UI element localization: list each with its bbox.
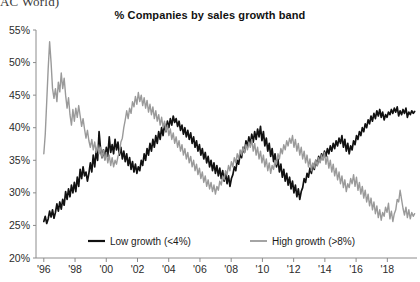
y-tick-label: 55% [9, 24, 30, 36]
legend-label: High growth (>8%) [272, 236, 355, 247]
line-chart-svg: 20%25%30%35%40%45%50%55% '96'98'00'02'04… [0, 0, 420, 282]
x-axis: '96'98'00'02'04'06'08'10'12'14'16'18 [36, 258, 417, 275]
x-tick-label: '02 [131, 263, 145, 275]
x-tick-label: '06 [193, 263, 207, 275]
y-tick-label: 25% [9, 219, 30, 231]
y-tick-label: 30% [9, 186, 30, 198]
y-tick-label: 45% [9, 89, 30, 101]
x-tick-label: '98 [68, 263, 82, 275]
x-tick-label: '18 [380, 263, 394, 275]
x-tick-label: '16 [349, 263, 363, 275]
x-tick-label: '08 [224, 263, 238, 275]
y-tick-label: 50% [9, 56, 30, 68]
x-tick-label: '04 [162, 263, 176, 275]
y-tick-label: 20% [9, 252, 30, 264]
series-lines [44, 42, 415, 224]
chart-legend: Low growth (<4%)High growth (>8%) [88, 236, 355, 247]
y-tick-label: 40% [9, 121, 30, 133]
chart-container: AC World) % Companies by sales growth ba… [0, 0, 420, 282]
series-line [44, 107, 415, 224]
legend-label: Low growth (<4%) [110, 236, 191, 247]
x-tick-label: '14 [318, 263, 332, 275]
x-tick-label: '00 [99, 263, 113, 275]
x-tick-label: '10 [256, 263, 270, 275]
x-tick-label: '96 [37, 263, 51, 275]
y-axis: 20%25%30%35%40%45%50%55% [9, 24, 36, 264]
y-tick-label: 35% [9, 154, 30, 166]
x-tick-label: '12 [287, 263, 301, 275]
